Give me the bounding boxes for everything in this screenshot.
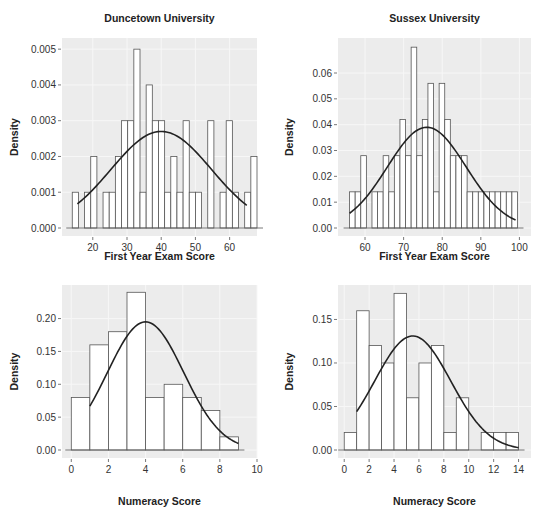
histogram-bar: [406, 156, 412, 228]
y-tick-label: 0.001: [31, 187, 56, 198]
figure: 0.0000.0010.0020.0030.0040.0052030405060…: [0, 0, 539, 527]
x-tick-label: 100: [511, 242, 528, 253]
histogram-grid: 0.0000.0010.0020.0030.0040.0052030405060…: [0, 0, 539, 527]
x-tick-label: 14: [513, 464, 525, 475]
histogram-bar: [122, 121, 128, 228]
histogram-bar: [490, 192, 496, 228]
histogram-bar: [72, 192, 78, 228]
histogram-bar: [245, 192, 251, 228]
histogram-bar: [183, 121, 189, 228]
histogram-bar: [456, 156, 462, 228]
histogram-bar: [90, 345, 109, 450]
histogram-bar: [431, 346, 443, 450]
histogram-bar: [195, 192, 201, 228]
histogram-bar: [473, 192, 479, 228]
histogram-bar: [467, 192, 473, 228]
y-tick-label: 0.00: [37, 445, 57, 456]
x-tick-label: 12: [488, 464, 500, 475]
histogram-bar: [127, 292, 146, 450]
histogram-bar: [394, 156, 400, 228]
histogram-bar: [220, 192, 226, 228]
histogram-bar: [411, 47, 417, 228]
histogram-bar: [478, 192, 484, 228]
chart-duncetown-exam: 0.0000.0010.0020.0030.0040.0052030405060…: [8, 12, 263, 262]
histogram-bar: [389, 192, 395, 228]
histogram-bar: [501, 192, 507, 228]
histogram-bar: [183, 397, 202, 450]
x-tick-label: 0: [69, 464, 75, 475]
histogram-bar: [91, 156, 97, 228]
histogram-bar: [71, 397, 90, 450]
y-tick-label: 0.04: [313, 119, 333, 130]
chart-duncetown-numeracy: 0.000.050.100.150.200246810Numeracy Scor…: [8, 285, 263, 507]
histogram-bar: [444, 433, 456, 450]
histogram-bar: [115, 156, 121, 228]
y-tick-label: 0.06: [313, 68, 333, 79]
histogram-bar: [177, 192, 183, 228]
histogram-bar: [361, 156, 367, 228]
y-tick-label: 0.05: [37, 412, 57, 423]
y-tick-label: 0.05: [313, 93, 333, 104]
y-tick-label: 0.00: [313, 445, 333, 456]
histogram-bar: [400, 120, 406, 229]
x-axis-label: Numeracy Score: [393, 495, 476, 507]
y-tick-label: 0.15: [313, 314, 333, 325]
histogram-bar: [146, 397, 165, 450]
y-tick-label: 0.003: [31, 115, 56, 126]
y-tick-label: 0.01: [313, 197, 333, 208]
y-tick-label: 0.20: [37, 313, 57, 324]
histogram-bar: [158, 121, 164, 228]
x-axis-label: Numeracy Score: [118, 495, 201, 507]
histogram-bar: [201, 411, 220, 450]
x-tick-label: 0: [341, 464, 347, 475]
histogram-bar: [146, 85, 152, 228]
chart-title: Sussex University: [389, 12, 480, 24]
y-tick-label: 0.005: [31, 44, 56, 55]
x-axis-label: First Year Exam Score: [104, 250, 215, 262]
y-tick-label: 0.10: [37, 379, 57, 390]
histogram-bar: [140, 192, 146, 228]
histogram-bar: [428, 83, 434, 228]
x-tick-label: 10: [251, 464, 263, 475]
histogram-bar: [357, 311, 369, 450]
y-axis-label: Density: [8, 118, 20, 156]
x-tick-label: 6: [416, 464, 422, 475]
histogram-bar: [372, 192, 378, 228]
histogram-bar: [226, 121, 232, 228]
x-tick-label: 10: [463, 464, 475, 475]
histogram-bar: [344, 433, 356, 450]
histogram-bar: [355, 192, 361, 228]
chart-title: Duncetown University: [104, 12, 214, 24]
y-tick-label: 0.15: [37, 346, 57, 357]
y-tick-label: 0.00: [313, 223, 333, 234]
y-axis-label: Density: [8, 352, 20, 390]
histogram-bar: [506, 192, 512, 228]
histogram-bar: [165, 192, 171, 228]
histogram-bar: [378, 192, 384, 228]
x-tick-label: 8: [441, 464, 447, 475]
histogram-bar: [406, 398, 418, 450]
x-tick-label: 4: [391, 464, 397, 475]
histogram-bar: [152, 121, 158, 228]
x-tick-label: 2: [106, 464, 112, 475]
histogram-bar: [445, 120, 451, 229]
x-tick-label: 4: [143, 464, 149, 475]
histogram-bar: [108, 332, 127, 450]
y-tick-label: 0.000: [31, 223, 56, 234]
chart-sussex-exam: 0.000.010.020.030.040.050.0660708090100S…: [283, 12, 531, 262]
histogram-bar: [439, 83, 445, 228]
x-axis-label: First Year Exam Score: [379, 250, 490, 262]
histogram-bar: [417, 156, 423, 228]
y-tick-label: 0.02: [313, 171, 333, 182]
histogram-bar: [134, 49, 140, 228]
y-axis-label: Density: [283, 118, 295, 156]
histogram-bar: [251, 156, 257, 228]
x-tick-label: 6: [180, 464, 186, 475]
histogram-bar: [208, 121, 214, 228]
histogram-bar: [419, 363, 431, 450]
histogram-bar: [382, 363, 394, 450]
histogram-bar: [103, 192, 109, 228]
y-tick-label: 0.03: [313, 145, 333, 156]
histogram-bar: [171, 156, 177, 228]
x-tick-label: 60: [224, 242, 236, 253]
